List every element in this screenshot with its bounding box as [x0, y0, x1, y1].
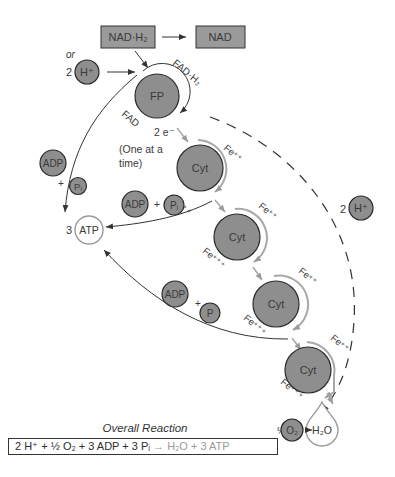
- svg-text:H₂O: H₂O: [312, 424, 332, 436]
- svg-text:+: +: [58, 178, 64, 189]
- fp-to-cyt1-arrow: [177, 128, 188, 142]
- overall-reaction-title: Overall Reaction: [0, 422, 290, 434]
- diagram-canvas: NAD·H₂ NAD or 2 H⁺ FP FAD·H₂ FAD 2 e⁻ (O…: [0, 0, 395, 477]
- proton-dashed-path: [210, 117, 354, 412]
- h-ion-left: H⁺: [75, 60, 99, 84]
- svg-text:ATP: ATP: [79, 224, 99, 236]
- nadh-to-fp-arrow: [135, 51, 148, 68]
- cyt-circle-2: Cyt: [214, 214, 260, 260]
- or-label: or: [66, 49, 76, 60]
- electrons-note-line1: (One at a: [119, 143, 163, 155]
- fp-circle: FP: [135, 74, 179, 118]
- reaction-products: H₂O + 3 ATP: [167, 440, 229, 452]
- cyt2-to-cyt3-arrow: [253, 267, 262, 280]
- electrons-note-line2: time): [119, 157, 142, 169]
- svg-text:ADP: ADP: [125, 199, 146, 210]
- svg-text:NAD: NAD: [208, 31, 231, 43]
- water-drop: H₂O: [306, 402, 338, 446]
- svg-text:+: +: [154, 198, 160, 210]
- cyt1-to-cyt2-arrow: [215, 200, 225, 212]
- h-count-right: 2: [340, 203, 346, 215]
- cyt4-fe-in: Fe⁺⁺: [329, 332, 352, 354]
- fad-label: FAD: [120, 108, 142, 129]
- nadh-box: NAD·H₂: [101, 26, 155, 48]
- svg-text:Cyt: Cyt: [192, 162, 209, 174]
- fadh-label: FAD·H₂: [171, 57, 204, 87]
- svg-text:H⁺: H⁺: [80, 66, 94, 78]
- cyt-circle-3: Cyt: [253, 281, 299, 327]
- reaction-arrow: →: [153, 440, 164, 452]
- h-ion-right: H⁺: [349, 196, 373, 220]
- svg-text:Pᵢ: Pᵢ: [170, 200, 179, 211]
- atp-circle: ATP: [75, 216, 103, 244]
- h-count-left: 2: [66, 66, 72, 78]
- svg-text:ADP: ADP: [43, 158, 64, 169]
- cyt-circle-1: Cyt: [177, 145, 223, 191]
- svg-text:+: +: [195, 298, 201, 309]
- svg-text:ADP: ADP: [165, 289, 186, 300]
- nad-box: NAD: [196, 26, 245, 48]
- reaction-reactants: 2 H⁺ + ½ O₂ + 3 ADP + 3 Pᵢ: [15, 440, 150, 452]
- svg-text:Cyt: Cyt: [268, 298, 285, 310]
- svg-text:H⁺: H⁺: [354, 202, 368, 214]
- svg-text:P: P: [207, 308, 214, 319]
- electrons-label: 2 e⁻: [154, 126, 175, 138]
- svg-text:NAD·H₂: NAD·H₂: [108, 31, 147, 43]
- svg-text:FP: FP: [150, 90, 164, 102]
- adp-site-1: ADP + Pᵢ: [122, 191, 184, 217]
- svg-text:Pᵢ: Pᵢ: [74, 181, 82, 192]
- atp-count: 3: [66, 224, 72, 236]
- overall-reaction-box: 2 H⁺ + ½ O₂ + 3 ADP + 3 Pᵢ → H₂O + 3 ATP: [8, 438, 278, 455]
- svg-text:Cyt: Cyt: [229, 231, 246, 243]
- svg-text:Cyt: Cyt: [300, 364, 317, 376]
- adp-site-0: ADP + Pᵢ: [40, 150, 87, 195]
